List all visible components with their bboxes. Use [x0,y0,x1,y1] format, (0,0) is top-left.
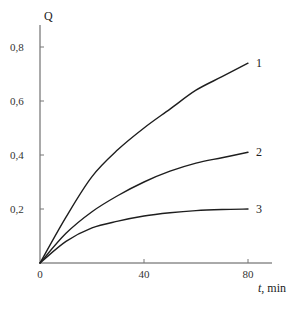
x-axis-title: t, min [258,281,286,295]
y-axis-title: Q [44,9,53,23]
x-ticks: 04080 [37,259,254,280]
y-tick-label: 0,6 [10,95,24,107]
y-tick-label: 0,8 [10,41,24,53]
x-axis-unit: , min [261,281,286,295]
series-labels: 123 [256,56,262,216]
series-curve-1 [40,63,248,263]
y-ticks: 0,20,40,60,8 [10,41,44,215]
x-tick-label: 0 [37,268,43,280]
series-label-1: 1 [256,56,262,70]
series-curve-3 [40,209,248,263]
y-tick-label: 0,4 [10,149,24,161]
series-curves [40,63,248,263]
series-label-2: 2 [256,145,262,159]
line-chart: 0,20,40,60,8 04080 Q t, min 123 [0,0,297,309]
x-tick-label: 40 [139,268,151,280]
series-label-3: 3 [256,202,262,216]
x-tick-label: 80 [243,268,255,280]
y-tick-label: 0,2 [10,203,24,215]
